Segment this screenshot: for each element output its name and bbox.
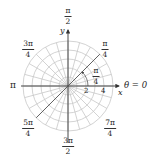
y-axis-label: y [60,27,65,35]
label-pi-over-4-inner: π 4 [93,67,100,85]
label-3pi-over-4: 3π 4 [22,40,34,58]
label-pi-over-4-outer: π 4 [102,40,109,58]
label-5pi-over-4: 5π 4 [22,119,34,137]
polar-grid-diagram: π 2 3π 4 π 4 π 4 π 5π 4 7π 4 3π 2 y x θ … [0,0,157,163]
label-7pi-over-4: 7π 4 [104,119,116,137]
label-pi-over-2: π 2 [65,7,72,25]
radius-tick-2: 2 [84,88,88,95]
angle-arc-icon [82,72,88,86]
label-pi: π [10,81,16,90]
x-axis-label: x [118,89,123,97]
label-3pi-over-2: 3π 2 [62,137,74,155]
radius-tick-4: 4 [101,88,105,95]
polar-axis-label: θ = 0 [124,81,147,90]
